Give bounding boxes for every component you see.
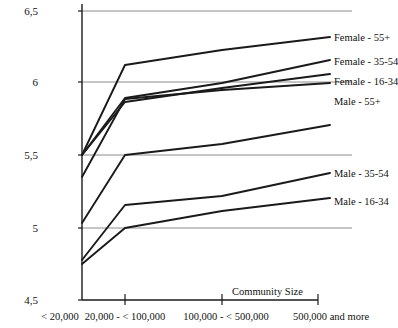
y-tick-label-6-5: 6,5 [4, 6, 38, 17]
gridlines [82, 11, 352, 228]
series-line-male-16-34 [82, 173, 330, 260]
legend-item-female-55plus: Female - 55+ [334, 32, 390, 43]
legend-item-male-35-54: Male - 35-54 [334, 168, 389, 179]
legend-item-female-35-54: Female - 35-54 [334, 56, 398, 67]
y-tick-label-6: 6 [4, 77, 38, 88]
x-axis-title: Community Size [232, 286, 303, 297]
series-line-female-55plus [82, 37, 330, 155]
legend-item-male-55plus: Male - 55+ [334, 96, 381, 107]
y-axis [78, 4, 82, 300]
x-tick-label-500000-more: 500,000 and more [267, 311, 395, 322]
series-line-female-35-54 [82, 60, 330, 155]
y-tick-label-4-5: 4,5 [4, 295, 38, 306]
legend-item-male-16-34: Male - 16-34 [334, 196, 389, 207]
chart-plot-area [0, 0, 398, 328]
legend-item-female-16-34: Female - 16-34 [334, 76, 398, 87]
y-tick-label-5-5: 5,5 [4, 150, 38, 161]
y-tick-label-5: 5 [4, 223, 38, 234]
series-lines [82, 37, 330, 264]
series-line-male-16-34-lower [82, 198, 330, 264]
series-line-male-35-54 [82, 125, 330, 223]
chart-container: 6,5 6 5,5 5 4,5 < 20,000 20,000 - < 100,… [0, 0, 398, 328]
